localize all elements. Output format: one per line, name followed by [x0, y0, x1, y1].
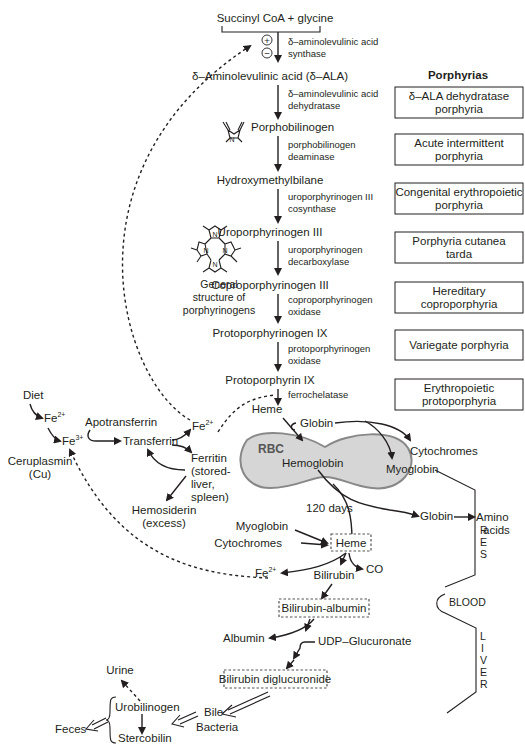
svg-text:porphyria: porphyria	[435, 150, 484, 162]
svg-text:E: E	[480, 536, 487, 548]
svg-text:(Cu): (Cu)	[29, 468, 52, 480]
svg-text:Hereditary: Hereditary	[432, 285, 485, 297]
enzyme-copro-oxidase: coproporphyrinogen	[288, 294, 373, 305]
svg-text:spleen): spleen)	[191, 491, 229, 503]
enzyme-pbg-deaminase: porphobilinogen	[288, 139, 356, 150]
porphyrias-title: Porphyrias	[428, 69, 488, 81]
product-protoporphyrin: Protoporphyrin IX	[225, 374, 315, 386]
ferritin-to-hemosiderin-arrow	[167, 476, 186, 500]
pyrrole-structure-icon: N	[223, 122, 244, 143]
enzyme-ala-synthase: δ–aminolevulinic acid	[288, 36, 378, 47]
negative-regulation-icon: −	[262, 48, 272, 59]
svg-text:Variegate porphyria: Variegate porphyria	[409, 339, 509, 351]
svg-text:oxidase: oxidase	[288, 306, 321, 317]
ceruloplasmin-label: Ceruplasmin	[8, 455, 73, 467]
svg-text:(excess): (excess)	[142, 517, 186, 529]
svg-text:+: +	[264, 35, 270, 46]
diet-arrow	[30, 404, 42, 418]
product-porphobilinogen: Porphobilinogen	[251, 121, 334, 133]
svg-text:(stored-: (stored-	[191, 465, 231, 477]
svg-text:decarboxylase: decarboxylase	[288, 256, 349, 267]
svg-text:N: N	[222, 247, 227, 254]
svg-text:N: N	[212, 261, 217, 268]
globin-degraded-label: Globin	[420, 510, 453, 522]
diglucuronide-to-bile-arrow	[222, 692, 270, 717]
hemosiderin-label: Hemosiderin	[132, 504, 197, 516]
globin-join-hook	[291, 423, 296, 430]
svg-text:δ–ALA dehydratase: δ–ALA dehydratase	[409, 90, 509, 102]
to-feces-arrow	[86, 718, 108, 731]
svg-text:Acute intermittent: Acute intermittent	[414, 137, 504, 149]
bilirubin-diglucuronide-label: Bilirubin diglucuronide	[219, 673, 332, 685]
amino-acids-label: Amino	[476, 511, 509, 523]
svg-text:I: I	[481, 642, 484, 654]
cytochromes-product-label: Cytochromes	[410, 445, 478, 457]
heme-degraded-label: Heme	[336, 537, 367, 549]
enzyme-uro-decarboxylase: uroporphyrinogen	[288, 244, 362, 255]
cytochromes-to-heme-arrow	[301, 543, 327, 545]
porphyria-box-3: Congenital erythropoietic porphyria	[395, 183, 523, 214]
product-protoporphyrinogen: Protoporphyrinogen IX	[212, 327, 327, 339]
porphyria-box-2: Acute intermittent porphyria	[395, 134, 523, 165]
enzyme-ala-dehydratase: δ–aminolevulinic acid	[288, 88, 378, 99]
stercobilin-label: Stercobilin	[118, 732, 172, 744]
fe2-to-fe3-arrow	[48, 428, 60, 441]
heme-to-co-arrow	[349, 553, 362, 569]
svg-text:structure of: structure of	[193, 291, 246, 303]
feces-label: Feces	[55, 723, 87, 735]
svg-text:V: V	[480, 654, 487, 666]
globin-label: Globin	[300, 417, 333, 429]
porphyria-box-6: Variegate porphyria	[395, 330, 523, 360]
udp-to-conjugation-arrow	[294, 642, 315, 658]
blood-bracket	[437, 594, 445, 613]
urobilinogen-to-urine-arrow	[122, 681, 140, 701]
svg-text:Porphyria cutanea: Porphyria cutanea	[412, 235, 506, 247]
heme-metabolism-diagram: Succinyl CoA + glycine + − δ–aminolevuli…	[0, 0, 525, 749]
urine-label: Urine	[106, 664, 133, 676]
svg-text:N: N	[212, 231, 217, 238]
liver-bracket	[445, 613, 476, 713]
bile-to-urobilinogen-arrow	[172, 712, 198, 727]
positive-regulation-icon: +	[262, 35, 272, 46]
res-bracket	[435, 470, 475, 587]
res-label-r: R	[480, 524, 488, 536]
bilirubin-to-albumin-complex-arrow	[322, 584, 332, 598]
substrate-bracket	[222, 26, 320, 32]
liver-label-l: L	[480, 630, 486, 642]
product-heme: Heme	[252, 403, 283, 415]
svg-text:porphyria: porphyria	[435, 103, 484, 115]
svg-text:S: S	[480, 548, 487, 560]
fe2-released: Fe2+	[255, 566, 276, 579]
udp-glucuronate-label: UDP–Glucuronate	[318, 635, 411, 647]
svg-text:−: −	[264, 48, 270, 59]
porphyria-box-4: Porphyria cutanea tarda	[395, 232, 523, 263]
ferritin-to-transferrin-arrow	[148, 450, 185, 470]
transferrin-label: Transferrin	[123, 435, 178, 447]
diet-label: Diet	[23, 389, 44, 401]
bilirubin-to-conjugation-arrow	[306, 619, 310, 630]
svg-text:tarda: tarda	[446, 248, 473, 260]
iron-fe2-out: Fe2+	[192, 419, 213, 432]
svg-text:N: N	[203, 247, 208, 254]
blood-label: BLOOD	[449, 596, 486, 608]
svg-text:porphyrinogens: porphyrinogens	[183, 304, 255, 316]
porphyria-box-5: Hereditary coproporphyria	[395, 282, 523, 313]
hemoglobin-label: Hemoglobin	[282, 457, 343, 469]
product-uroporphyrinogen: Uroporphyrinogen III	[218, 226, 323, 238]
svg-text:dehydratase: dehydratase	[288, 100, 340, 111]
iron-fe3: Fe3+	[62, 434, 83, 447]
svg-text:coproporphyria: coproporphyria	[421, 298, 498, 310]
start-substrates: Succinyl CoA + glycine	[217, 12, 334, 24]
svg-text:porphyria: porphyria	[435, 199, 484, 211]
co-label: CO	[366, 563, 383, 575]
porphyria-box-7: Erythropoietic protoporphyria	[395, 379, 523, 410]
enzyme-uro-cosynthase: uroporphyrinogen III	[288, 191, 373, 202]
enzyme-proto-oxidase: protoporphyrinogen	[288, 343, 370, 354]
fe3-to-transferrin-arrow	[88, 430, 120, 441]
product-hydroxymethylbilane: Hydroxymethylbilane	[217, 174, 324, 186]
rbc-label: RBC	[258, 442, 284, 456]
svg-text:Erythropoietic: Erythropoietic	[424, 382, 495, 394]
ferritin-label: Ferritin	[191, 452, 227, 464]
svg-text:liver,: liver,	[191, 478, 215, 490]
iron-fe2: Fe2+	[44, 411, 65, 424]
